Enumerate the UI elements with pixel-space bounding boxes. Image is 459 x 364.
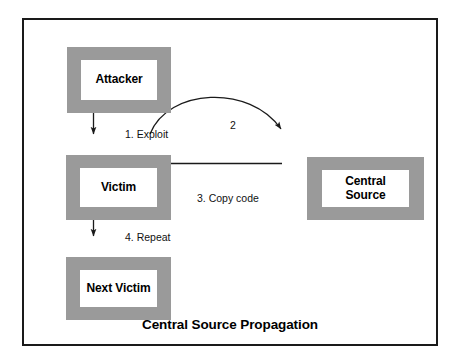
node-next-victim[interactable]: Next Victim: [66, 257, 171, 320]
node-victim[interactable]: Victim: [66, 155, 171, 220]
node-attacker-label: Attacker: [95, 73, 142, 87]
diagram-canvas: Attacker Victim Next Victim Central Sour…: [0, 0, 459, 364]
edge-label-two: 2: [230, 119, 236, 131]
node-attacker[interactable]: Attacker: [67, 47, 171, 113]
edge-label-repeat: 4. Repeat: [125, 231, 171, 243]
diagram-frame: Attacker Victim Next Victim Central Sour…: [22, 18, 438, 346]
node-victim-label: Victim: [101, 181, 136, 195]
node-central-source[interactable]: Central Source: [307, 157, 424, 220]
diagram-title: Central Source Propagation: [22, 317, 438, 332]
node-next-victim-label: Next Victim: [86, 282, 150, 296]
edge-label-exploit: 1. Exploit: [125, 128, 168, 140]
node-central-source-label: Central Source: [345, 175, 386, 203]
edge-label-copy-code: 3. Copy code: [197, 192, 259, 204]
